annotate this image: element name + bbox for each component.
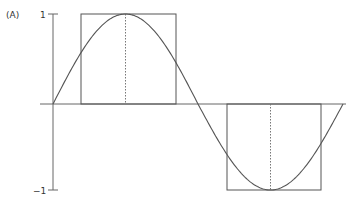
chart: (A) 1 −1 [0,0,354,203]
sine-curve [53,14,343,190]
y-axis [48,14,58,190]
dotted-guides [126,14,271,190]
square-pulses [81,14,321,190]
ytick-label-top: 1 [40,10,46,20]
panel-label: (A) [6,10,19,20]
ytick-label-bottom: −1 [33,186,46,196]
